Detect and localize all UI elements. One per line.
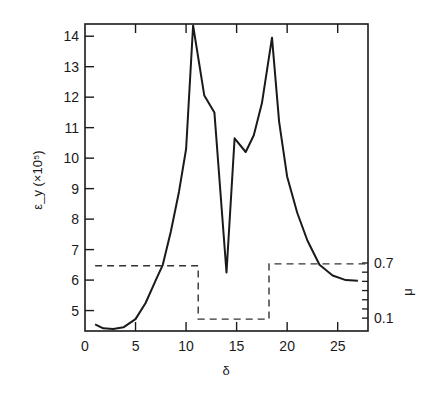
y-tick-label: 11 <box>64 120 79 136</box>
x-tick-label: 0 <box>81 338 89 354</box>
y2-tick-label: 0.7 <box>374 255 394 271</box>
x-axis-label: δ <box>222 363 229 378</box>
y-tick-label: 9 <box>71 181 79 197</box>
y-tick-label: 12 <box>63 89 79 105</box>
y2-axis-label: μ <box>400 288 415 296</box>
chart: 05101520255678910111213140.10.7 δ ε_y (×… <box>0 0 428 395</box>
x-tick-label: 15 <box>229 338 245 354</box>
x-tick-label: 10 <box>178 338 194 354</box>
y-tick-label: 14 <box>63 28 79 44</box>
y-tick-label: 5 <box>71 303 79 319</box>
y2-tick-label: 0.1 <box>374 310 394 326</box>
epsilon-curve <box>95 26 358 329</box>
axis-ticks: 05101520255678910111213140.10.7 <box>63 24 393 354</box>
x-tick-label: 20 <box>279 338 295 354</box>
x-tick-label: 25 <box>330 338 346 354</box>
y-tick-label: 8 <box>71 211 79 227</box>
y-tick-label: 6 <box>71 272 79 288</box>
data-series <box>95 26 368 329</box>
y-tick-label: 7 <box>71 242 79 258</box>
y-tick-label: 13 <box>63 59 79 75</box>
y-axis-label: ε_y (×10⁵) <box>30 150 45 209</box>
axes-frame <box>85 24 368 331</box>
x-tick-label: 5 <box>132 338 140 354</box>
y-tick-label: 10 <box>63 150 79 166</box>
plot-frame <box>85 24 368 331</box>
